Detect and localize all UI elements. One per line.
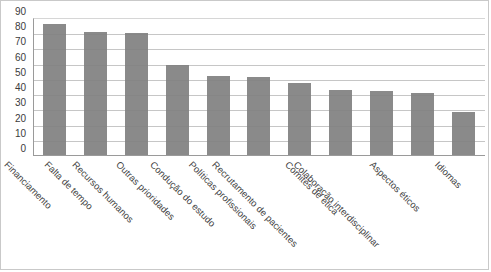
x-axis-line — [33, 155, 485, 156]
bar — [329, 90, 352, 155]
bar — [411, 93, 434, 155]
y-tick-10: 10 — [15, 129, 26, 139]
bar-slot — [34, 18, 75, 155]
x-axis-category-labels: FinanciamentoFalta de tempoRecursos huma… — [34, 157, 484, 269]
bar — [452, 112, 475, 155]
y-tick-80: 80 — [15, 22, 26, 32]
y-tick-40: 40 — [15, 83, 26, 93]
y-tick-0: 0 — [20, 144, 26, 154]
bar — [288, 83, 311, 155]
bar-slot — [239, 18, 280, 155]
y-tick-60: 60 — [15, 53, 26, 63]
bar — [43, 24, 66, 155]
bar-slot — [279, 18, 320, 155]
y-tick-20: 20 — [15, 114, 26, 124]
y-tick-50: 50 — [15, 68, 26, 78]
bar-slot — [116, 18, 157, 155]
y-axis-tick-labels: 9080706050403020100 — [0, 12, 30, 160]
bar-series — [34, 18, 484, 155]
bar — [84, 32, 107, 155]
bar — [166, 65, 189, 155]
bar-slot — [157, 18, 198, 155]
bar-slot — [75, 18, 116, 155]
bar-slot — [320, 18, 361, 155]
bar — [247, 77, 270, 155]
y-tick-70: 70 — [15, 37, 26, 47]
bar-chart: 9080706050403020100 FinanciamentoFalta d… — [0, 0, 491, 272]
y-tick-90: 90 — [15, 7, 26, 17]
bar-slot — [402, 18, 443, 155]
y-tick-30: 30 — [15, 98, 26, 108]
bar — [370, 91, 393, 155]
bar-slot — [198, 18, 239, 155]
x-label-slot: Aspectos éticos — [402, 157, 443, 269]
x-label-slot: Idiomas — [443, 157, 484, 269]
bar — [207, 76, 230, 155]
bar-slot — [361, 18, 402, 155]
bar — [125, 33, 148, 155]
bar-slot — [443, 18, 484, 155]
